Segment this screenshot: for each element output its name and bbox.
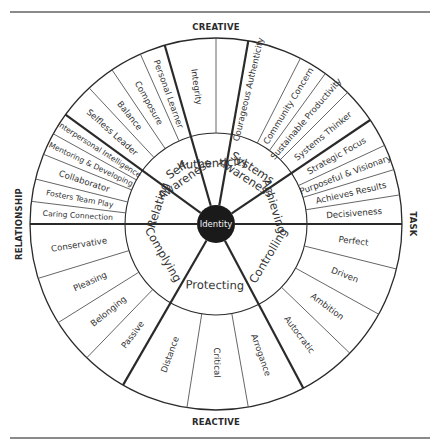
segment-divider-thin bbox=[232, 314, 248, 408]
outer-segment-label: Ambition bbox=[309, 291, 346, 322]
outer-segment-label: Courageous Authenticity bbox=[231, 36, 266, 142]
inner-sector-label: Protecting bbox=[186, 277, 245, 292]
outer-segment-label: Integrity bbox=[189, 68, 204, 106]
axis-label-relationship: RELATIONSHIP bbox=[14, 188, 24, 260]
inner-sector-label: Controlling bbox=[246, 225, 290, 286]
identity-center-label: Identity bbox=[200, 219, 233, 229]
outer-segment-label: Critical bbox=[212, 347, 222, 377]
inner-sector-label-group: Controlling bbox=[246, 225, 290, 286]
inner-sector-label: Relating bbox=[144, 181, 172, 230]
outer-segment-label: Decisiveness bbox=[326, 206, 383, 220]
outer-segment-label: Autocratic bbox=[282, 314, 317, 355]
outer-segment-label: Balance bbox=[115, 99, 144, 132]
inner-sector-label-group: Protecting bbox=[186, 277, 245, 292]
inner-sector-label-group: Relating bbox=[144, 181, 172, 230]
axis-label-reactive: REACTIVE bbox=[192, 417, 240, 427]
outer-segment-label: Passive bbox=[119, 319, 146, 350]
segment-divider-thin bbox=[304, 246, 396, 269]
outer-segment-label: Pleasing bbox=[72, 269, 109, 293]
outer-segment-label: Perfect bbox=[338, 234, 370, 248]
segment-divider-thin bbox=[38, 251, 129, 279]
outer-segment-label: Caring Connection bbox=[42, 209, 113, 222]
leadership-circle-wheel: DecisivenessAchieves ResultsPurposeful &… bbox=[0, 0, 434, 446]
outer-segment-label: Distance bbox=[159, 335, 181, 374]
outer-segment-label: Belonging bbox=[89, 294, 129, 329]
outer-segment-label: Arrogance bbox=[249, 333, 273, 378]
inner-sector-label: Complying bbox=[142, 224, 185, 284]
outer-segment-label: Conservative bbox=[50, 235, 107, 253]
outer-segment-label: Driven bbox=[330, 265, 360, 285]
axis-label-creative: CREATIVE bbox=[192, 22, 239, 32]
inner-sector-label-group: Complying bbox=[142, 224, 185, 284]
segment-divider-thin bbox=[187, 314, 202, 408]
axis-label-task: TASK bbox=[408, 211, 418, 236]
